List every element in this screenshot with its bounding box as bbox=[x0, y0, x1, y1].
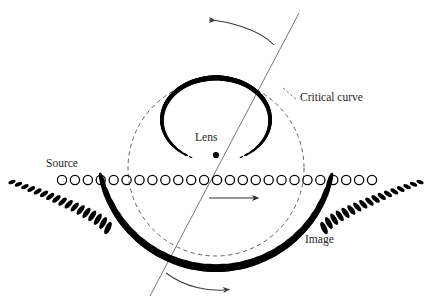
figure-canvas: Source Lens Critical curve Image bbox=[0, 0, 436, 305]
source-circle bbox=[174, 175, 183, 184]
source-circle bbox=[277, 175, 286, 184]
source-circle bbox=[83, 175, 92, 184]
image-arc-lower bbox=[97, 172, 335, 273]
image-ellipse bbox=[416, 179, 424, 185]
source-circle bbox=[135, 175, 144, 184]
image-ellipse bbox=[14, 181, 23, 188]
image-ellipse bbox=[189, 156, 193, 159]
source-circle bbox=[316, 175, 325, 184]
critical-curve-circle bbox=[128, 80, 304, 256]
lensing-diagram: Source Lens Critical curve Image bbox=[0, 0, 436, 305]
source-circle bbox=[342, 175, 351, 184]
source-circle bbox=[57, 175, 66, 184]
source-circle bbox=[187, 175, 196, 184]
source-circle bbox=[238, 175, 247, 184]
source-circle bbox=[161, 175, 170, 184]
source-circle bbox=[148, 175, 157, 184]
image-ellipse bbox=[409, 181, 418, 188]
source-circle bbox=[251, 175, 260, 184]
source-circle bbox=[303, 175, 312, 184]
source-circle bbox=[367, 175, 376, 184]
image-ring-upper bbox=[159, 74, 273, 158]
label-lens: Lens bbox=[195, 131, 218, 143]
label-source: Source bbox=[46, 157, 78, 169]
source-circle bbox=[225, 175, 234, 184]
source-circle bbox=[264, 175, 273, 184]
label-critical-curve: Critical curve bbox=[300, 91, 363, 103]
source-circle bbox=[70, 175, 79, 184]
source-circle bbox=[199, 175, 208, 184]
image-tail-right bbox=[319, 179, 425, 235]
bottom-rotation-arrow bbox=[166, 273, 224, 290]
source-circle bbox=[109, 175, 118, 184]
source-circle bbox=[212, 175, 221, 184]
lens-centre-dot bbox=[213, 152, 219, 158]
source-circle bbox=[122, 175, 131, 184]
label-image: Image bbox=[305, 233, 334, 246]
critical-curve-leader bbox=[283, 88, 297, 100]
source-circle bbox=[290, 175, 299, 184]
image-ellipse bbox=[239, 156, 243, 159]
image-ellipse bbox=[8, 179, 16, 185]
image-tail-left bbox=[8, 179, 114, 235]
image-ellipse bbox=[181, 152, 188, 157]
top-rotation-arrow bbox=[209, 20, 274, 45]
source-circle bbox=[354, 175, 363, 184]
